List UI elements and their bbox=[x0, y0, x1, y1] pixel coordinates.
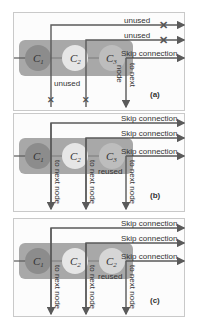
label-to-next-node-1: to next node bbox=[53, 160, 62, 205]
x-mark-icon: ✕ bbox=[47, 95, 55, 105]
label-skip-connection: Skip connection bbox=[121, 49, 177, 58]
x-mark-icon: ✕ bbox=[82, 95, 90, 105]
panel-b-diagram: C1 C2 C3 Skip connection Skip connection… bbox=[14, 114, 186, 213]
panel-b: C1 C2 C3 Skip connection Skip connection… bbox=[13, 113, 185, 212]
panel-a-diagram: C1 C2 C3 ✕ ✕ ✕ ✕ unused unused Skip conn… bbox=[14, 13, 186, 112]
label-skip-connection-3: Skip connection bbox=[121, 252, 177, 261]
x-mark-icon: ✕ bbox=[159, 19, 168, 31]
panel-tag: (b) bbox=[150, 191, 161, 200]
label-skip-connection-2: Skip connection bbox=[121, 129, 177, 138]
label-reused: reused bbox=[98, 167, 122, 176]
label-skip-connection-1: Skip connection bbox=[121, 114, 177, 123]
panel-a: C1 C2 C3 ✕ ✕ ✕ ✕ unused unused Skip conn… bbox=[13, 12, 185, 111]
panel-c-diagram: C1 C2 C2 Skip connection Skip connection… bbox=[14, 219, 186, 318]
label-to-next-node-2: to next node bbox=[88, 160, 97, 205]
label-skip-connection-2: Skip connection bbox=[121, 234, 177, 243]
label-unused-1: unused bbox=[124, 16, 150, 25]
label-skip-connection-3: Skip connection bbox=[121, 147, 177, 156]
label-to-next: to next bbox=[128, 63, 137, 88]
label-unused-3: unused bbox=[54, 79, 80, 88]
label-reused: reused bbox=[98, 272, 122, 281]
label-to-next-node-2: to next node bbox=[88, 265, 97, 310]
x-mark-icon: ✕ bbox=[159, 34, 168, 46]
label-skip-connection-1: Skip connection bbox=[121, 219, 177, 228]
panel-tag: (a) bbox=[150, 90, 160, 99]
label-to-next-node-1: to next node bbox=[53, 265, 62, 310]
label-unused-2: unused bbox=[124, 31, 150, 40]
panel-c: C1 C2 C2 Skip connection Skip connection… bbox=[13, 218, 185, 317]
label-to-next-node-3: to next node bbox=[128, 265, 137, 310]
panel-tag: (c) bbox=[150, 296, 160, 305]
label-node: node bbox=[115, 65, 124, 83]
label-to-next-node-3: to next node bbox=[128, 160, 137, 205]
